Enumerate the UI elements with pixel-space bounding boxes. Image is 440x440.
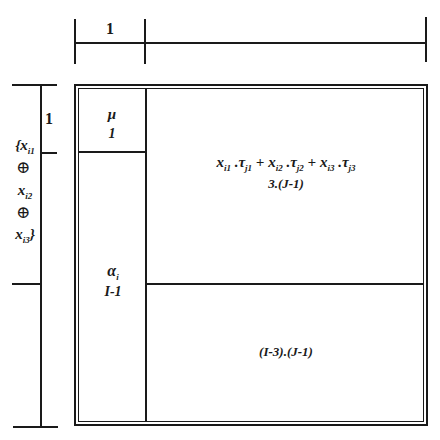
oplus-icon: ⊕ <box>13 157 33 178</box>
factor-x-i2: xi2 <box>10 182 40 201</box>
left-ruler-axis <box>40 84 42 427</box>
interaction-formula: xi1 .τj1 + xi2 .τj2 + xi3 .τj3 <box>147 154 425 173</box>
mu-symbol: μ <box>100 106 124 123</box>
top-ruler-tick-mid <box>144 19 146 64</box>
top-ruler-axis <box>75 42 427 44</box>
top-ruler-label: 1 <box>100 20 120 38</box>
mu-row-divider <box>78 151 146 153</box>
residual-dim: (I-3).(J-1) <box>147 344 425 360</box>
factor-x-i1: {xi1 <box>10 137 40 156</box>
interaction-row-divider <box>146 283 424 285</box>
alpha-dim: I-1 <box>96 284 130 300</box>
left-ruler-tick-bottom <box>13 426 58 428</box>
mu-dim: 1 <box>100 126 124 142</box>
left-ruler-tick-2 <box>12 283 41 285</box>
left-ruler-tick-1 <box>40 152 57 154</box>
matrix-inner-border <box>78 88 424 422</box>
left-ruler-label: 1 <box>42 110 56 128</box>
left-ruler-tick-top <box>12 84 57 86</box>
column-divider <box>145 88 147 422</box>
top-ruler-tick-left <box>74 19 76 64</box>
top-ruler-tick-right <box>425 17 427 62</box>
oplus-icon: ⊕ <box>13 202 33 223</box>
factor-x-i3: xi3} <box>10 226 40 245</box>
interaction-dim: 3.(J-1) <box>147 176 425 192</box>
alpha-symbol: αi <box>98 262 128 282</box>
